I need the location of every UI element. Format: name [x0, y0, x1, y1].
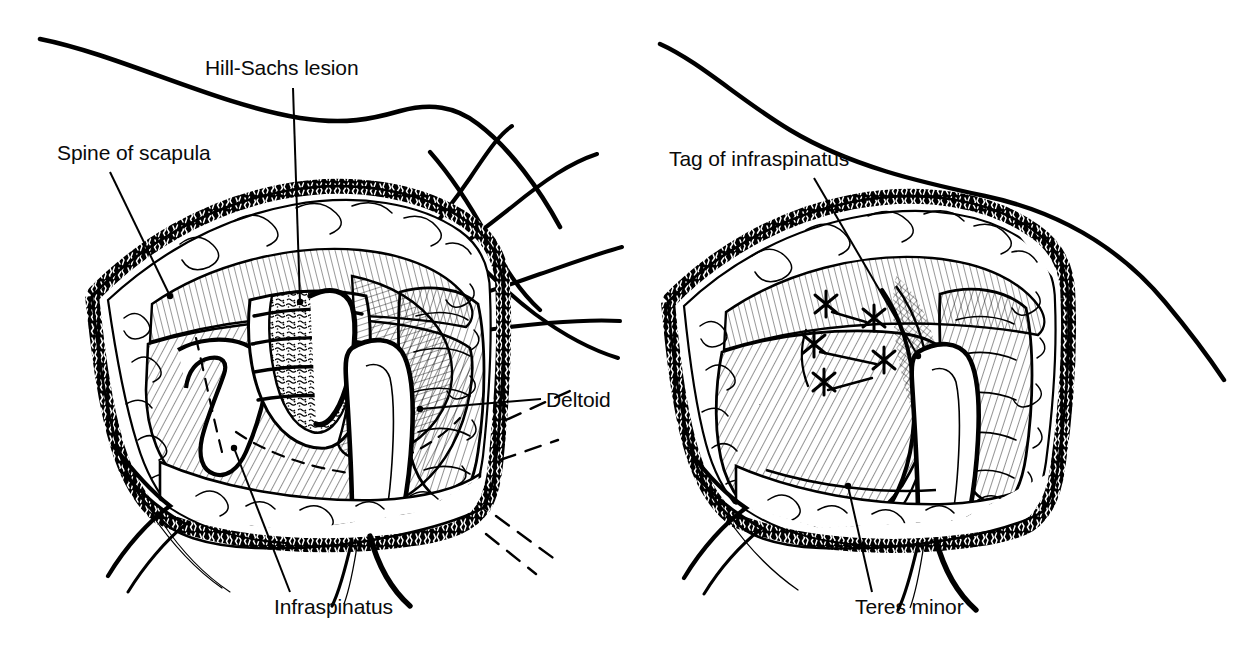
label-infraspinatus: Infraspinatus: [274, 596, 393, 618]
label-deltoid: Deltoid: [546, 389, 611, 411]
label-hill-sachs-lesion: Hill-Sachs lesion: [205, 57, 359, 79]
retractor-blade-left: [346, 340, 413, 565]
illustration-canvas: [0, 0, 1251, 651]
label-tag-of-infraspinatus: Tag of infraspinatus: [669, 148, 849, 170]
right-panel-artwork: [660, 44, 1224, 610]
left-panel-artwork: [40, 39, 622, 606]
label-teres-minor: Teres minor: [855, 596, 964, 618]
surgical-illustration-figure: Hill-Sachs lesion Spine of scapula Delto…: [0, 0, 1251, 651]
label-spine-of-scapula: Spine of scapula: [57, 142, 211, 164]
